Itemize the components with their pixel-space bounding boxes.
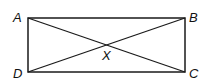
rectangle-diagram: A B C D X — [0, 0, 208, 81]
vertex-label-b: B — [189, 10, 198, 25]
vertex-label-c: C — [189, 66, 199, 81]
intersection-label-x: X — [101, 48, 112, 63]
vertex-label-a: A — [12, 10, 22, 25]
vertex-label-d: D — [13, 66, 22, 81]
